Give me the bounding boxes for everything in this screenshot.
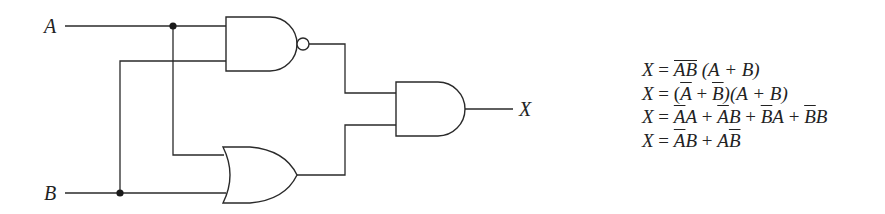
equation-3: X = AA + AB + BA + BB bbox=[642, 105, 827, 129]
nand-gate bbox=[226, 17, 297, 71]
wire-nand-to-and bbox=[309, 44, 396, 93]
input-label-b: B bbox=[44, 182, 56, 204]
overbar-ab: AB bbox=[674, 60, 697, 78]
input-label-a: A bbox=[42, 15, 57, 37]
wire-or-to-and bbox=[297, 125, 396, 175]
and-gate bbox=[396, 82, 465, 136]
equation-2: X = (A + B)(A + B) bbox=[642, 82, 827, 106]
equation-1: X = AB (A + B) bbox=[642, 58, 827, 82]
junction-dot-b bbox=[116, 189, 123, 196]
boolean-equations: X = AB (A + B) X = (A + B)(A + B) X = AA… bbox=[642, 58, 827, 152]
or-gate bbox=[223, 147, 297, 203]
junction-dot-a bbox=[169, 22, 176, 29]
nand-inversion-bubble bbox=[297, 38, 309, 50]
output-label-x: X bbox=[518, 98, 532, 120]
wire-a-to-or bbox=[173, 26, 224, 155]
equation-4: X = AB + AB bbox=[642, 129, 827, 153]
